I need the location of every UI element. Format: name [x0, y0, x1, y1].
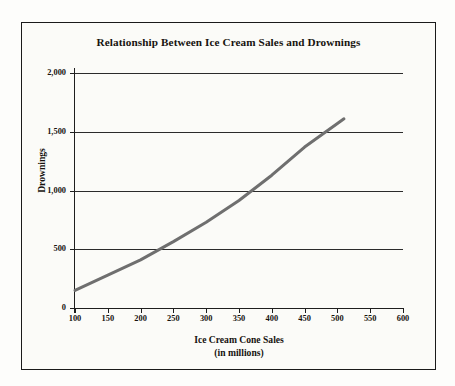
x-tick-mark-550 [370, 308, 371, 313]
gridline-2000 [75, 73, 403, 74]
x-axis-label-sub: (in millions) [75, 347, 403, 360]
x-axis-label: Ice Cream Cone Sales (in millions) [75, 334, 403, 359]
x-tick-mark-150 [108, 308, 109, 313]
plot-area [75, 73, 403, 308]
y-axis-label: Drownings [36, 126, 47, 216]
x-tick-mark-250 [173, 308, 174, 313]
y-tick-label-2000: 2,000 [22, 68, 66, 77]
x-tick-mark-450 [305, 308, 306, 313]
y-tick-label-0: 0 [22, 303, 66, 312]
x-tick-label-600: 600 [386, 314, 420, 323]
x-tick-label-100: 100 [58, 314, 92, 323]
x-tick-label-450: 450 [288, 314, 322, 323]
x-tick-mark-500 [337, 308, 338, 313]
x-tick-mark-300 [206, 308, 207, 313]
y-tick-mark-500 [70, 249, 75, 250]
x-tick-label-500: 500 [320, 314, 354, 323]
y-tick-label-500: 500 [22, 244, 66, 253]
chart-title: Relationship Between Ice Cream Sales and… [21, 36, 436, 48]
y-tick-mark-1500 [70, 132, 75, 133]
x-tick-label-550: 550 [353, 314, 387, 323]
x-tick-mark-100 [75, 308, 76, 313]
x-tick-mark-600 [403, 308, 404, 313]
x-tick-mark-400 [272, 308, 273, 313]
x-tick-label-400: 400 [255, 314, 289, 323]
x-tick-label-300: 300 [189, 314, 223, 323]
gridline-1500 [75, 132, 403, 133]
x-tick-label-200: 200 [124, 314, 158, 323]
gridline-500 [75, 249, 403, 250]
gridline-1000 [75, 191, 403, 192]
x-tick-label-250: 250 [156, 314, 190, 323]
chart-figure: Relationship Between Ice Cream Sales and… [0, 0, 455, 386]
x-tick-mark-350 [239, 308, 240, 313]
x-tick-label-150: 150 [91, 314, 125, 323]
x-tick-mark-200 [141, 308, 142, 313]
y-tick-mark-1000 [70, 191, 75, 192]
x-tick-label-350: 350 [222, 314, 256, 323]
y-tick-mark-2000 [70, 73, 75, 74]
x-axis-label-main: Ice Cream Cone Sales [194, 334, 284, 345]
